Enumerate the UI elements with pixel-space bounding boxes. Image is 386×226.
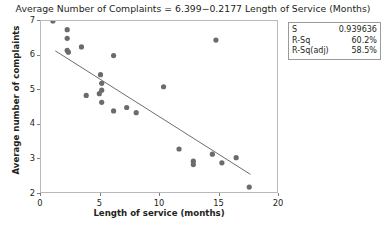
statistic-label: R-Sq bbox=[292, 36, 339, 47]
y-tick-mark bbox=[37, 124, 40, 125]
y-tick-label: 7 bbox=[21, 15, 35, 25]
x-tick-label: 0 bbox=[30, 198, 50, 208]
chart-screenshot: Average Number of Complaints = 6.399−0.2… bbox=[0, 0, 386, 226]
y-tick-mark bbox=[37, 89, 40, 90]
statistic-label: S bbox=[292, 25, 339, 36]
data-point bbox=[234, 155, 239, 160]
statistic-value: 60.2% bbox=[339, 36, 377, 47]
statistic-value: 0.939636 bbox=[339, 25, 377, 36]
y-tick-mark bbox=[37, 20, 40, 21]
data-point bbox=[50, 21, 55, 24]
data-point bbox=[210, 152, 215, 157]
data-point bbox=[99, 100, 104, 105]
data-point bbox=[124, 105, 129, 110]
data-point bbox=[111, 53, 116, 58]
y-tick-label: 4 bbox=[21, 118, 35, 128]
statistics-row: R-Sq(adj)58.5% bbox=[292, 46, 377, 57]
y-tick-label: 2 bbox=[21, 188, 35, 198]
x-tick-mark bbox=[40, 193, 41, 196]
x-tick-label: 20 bbox=[268, 198, 288, 208]
data-point bbox=[84, 93, 89, 98]
plot-area bbox=[40, 20, 278, 193]
statistics-table: S0.939636R-Sq60.2%R-Sq(adj)58.5% bbox=[292, 25, 377, 57]
statistics-box: S0.939636R-Sq60.2%R-Sq(adj)58.5% bbox=[288, 22, 381, 60]
x-tick-mark bbox=[159, 193, 160, 196]
y-tick-mark bbox=[37, 55, 40, 56]
statistics-row: R-Sq60.2% bbox=[292, 36, 377, 47]
data-point bbox=[247, 184, 252, 189]
x-tick-label: 5 bbox=[90, 198, 110, 208]
scatter-plot-svg bbox=[41, 21, 279, 194]
x-axis-title: Length of service (months) bbox=[40, 208, 278, 218]
data-point bbox=[191, 162, 196, 167]
y-axis-title: Average number of complaints bbox=[11, 10, 21, 190]
x-tick-mark bbox=[100, 193, 101, 196]
chart-title: Average Number of Complaints = 6.399−0.2… bbox=[0, 3, 386, 15]
data-point bbox=[99, 88, 104, 93]
statistics-row: S0.939636 bbox=[292, 25, 377, 36]
y-tick-mark bbox=[37, 158, 40, 159]
y-tick-label: 5 bbox=[21, 84, 35, 94]
x-tick-mark bbox=[278, 193, 279, 196]
statistic-label: R-Sq(adj) bbox=[292, 46, 339, 57]
statistic-value: 58.5% bbox=[339, 46, 377, 57]
regression-line bbox=[55, 51, 250, 175]
data-point bbox=[219, 160, 224, 165]
y-tick-label: 3 bbox=[21, 153, 35, 163]
x-tick-label: 15 bbox=[209, 198, 229, 208]
data-point bbox=[176, 146, 181, 151]
data-point bbox=[66, 50, 71, 55]
data-point bbox=[213, 37, 218, 42]
data-point bbox=[65, 27, 70, 32]
data-point bbox=[65, 36, 70, 41]
data-point bbox=[161, 84, 166, 89]
y-tick-label: 6 bbox=[21, 49, 35, 59]
data-point bbox=[134, 110, 139, 115]
x-tick-mark bbox=[219, 193, 220, 196]
data-point bbox=[79, 44, 84, 49]
x-tick-label: 10 bbox=[149, 198, 169, 208]
data-points-group bbox=[50, 21, 252, 190]
data-point bbox=[111, 108, 116, 113]
data-point bbox=[98, 72, 103, 77]
